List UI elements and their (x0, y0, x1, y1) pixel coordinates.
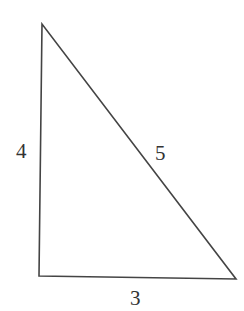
side-label-bottom: 3 (130, 286, 141, 310)
triangle-shape (39, 24, 236, 279)
side-label-left: 4 (16, 139, 27, 163)
side-label-hypotenuse: 5 (155, 141, 166, 165)
triangle-diagram: 4 5 3 (0, 0, 244, 311)
